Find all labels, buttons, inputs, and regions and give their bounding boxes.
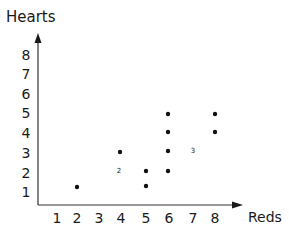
y-tick-labels: 8 7 6 5 4 3 2 1 bbox=[22, 47, 31, 200]
x-axis-arrowhead-icon bbox=[232, 202, 243, 209]
y-tick-6: 6 bbox=[22, 86, 31, 102]
data-point bbox=[166, 130, 170, 134]
y-tick-2: 2 bbox=[22, 165, 31, 181]
x-tick-7: 7 bbox=[189, 210, 198, 226]
x-tick-2: 2 bbox=[73, 210, 82, 226]
x-tick-6: 6 bbox=[165, 210, 174, 226]
y-tick-1: 1 bbox=[22, 184, 31, 200]
x-axis-label: Reds bbox=[248, 209, 282, 225]
x-tick-4: 4 bbox=[117, 210, 126, 226]
annotation-count-3: 3 bbox=[191, 147, 195, 155]
x-tick-3: 3 bbox=[95, 210, 104, 226]
data-point bbox=[213, 112, 217, 116]
x-tick-5: 5 bbox=[142, 210, 151, 226]
y-tick-3: 3 bbox=[22, 145, 31, 161]
data-point bbox=[75, 185, 79, 189]
data-point bbox=[144, 184, 148, 188]
y-tick-4: 4 bbox=[22, 125, 31, 141]
y-axis-arrowhead-icon bbox=[35, 33, 42, 43]
y-tick-8: 8 bbox=[22, 47, 31, 63]
data-point bbox=[118, 150, 122, 154]
x-tick-1: 1 bbox=[53, 210, 62, 226]
annotation-count-2: 2 bbox=[117, 167, 121, 175]
x-tick-8: 8 bbox=[211, 210, 220, 226]
y-tick-7: 7 bbox=[22, 66, 31, 82]
data-points bbox=[75, 112, 217, 189]
x-tick-labels: 1 2 3 4 5 6 7 8 bbox=[53, 210, 220, 226]
scatter-chart: Hearts Reds 8 7 6 5 4 3 2 1 1 2 3 4 5 6 … bbox=[0, 0, 289, 234]
data-point bbox=[166, 169, 170, 173]
y-tick-5: 5 bbox=[22, 105, 31, 121]
data-point bbox=[144, 169, 148, 173]
y-axis-label: Hearts bbox=[6, 8, 56, 26]
data-point bbox=[166, 149, 170, 153]
data-point bbox=[166, 112, 170, 116]
data-point bbox=[213, 130, 217, 134]
